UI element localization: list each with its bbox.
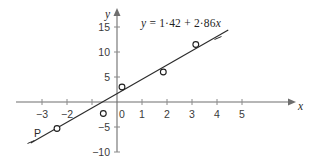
equation-rhs-variable: x <box>216 17 221 29</box>
y-tick-label--10: −10 <box>92 146 110 158</box>
data-point <box>119 84 125 90</box>
x-tick-label-1: 1 <box>139 108 145 120</box>
data-point <box>193 42 199 48</box>
equation-plus: + <box>184 17 191 29</box>
x-tick-label--2: −2 <box>61 108 73 120</box>
point-p-label: P <box>34 127 41 139</box>
y-axis-label: y <box>104 8 111 21</box>
y-tick-label-15: 15 <box>98 21 110 33</box>
x-tick-label-0: 0 <box>119 108 125 120</box>
equation-slope: 2·86 <box>194 17 216 29</box>
regression-scatter-chart: −3 −2 0 1 2 3 4 5 15 10 5 −5 −10 x y <box>0 0 311 161</box>
y-axis-tick-labels: 15 10 5 −5 −10 <box>92 21 110 158</box>
y-tick-label-5: 5 <box>104 71 110 83</box>
x-tick-label--3: −3 <box>36 108 48 120</box>
x-axis-tick-labels: −3 −2 0 1 2 3 4 5 <box>36 108 245 120</box>
x-axis-arrowhead <box>288 99 296 106</box>
y-tick-label-10: 10 <box>98 46 110 58</box>
data-point <box>160 69 166 75</box>
equation-intercept: 1·42 <box>159 17 181 29</box>
x-tick-label-3: 3 <box>189 108 195 120</box>
x-tick-label-5: 5 <box>239 108 245 120</box>
data-point <box>54 126 60 132</box>
x-tick-label-4: 4 <box>214 108 220 120</box>
y-axis-arrowhead <box>114 8 121 16</box>
data-point <box>100 111 106 117</box>
regression-equation-annotation: y = 1·42 + 2·86x <box>141 17 221 29</box>
x-axis-label: x <box>297 100 304 112</box>
y-tick-label--5: −5 <box>98 121 110 133</box>
regression-line <box>31 30 229 143</box>
x-tick-label-2: 2 <box>164 108 170 120</box>
